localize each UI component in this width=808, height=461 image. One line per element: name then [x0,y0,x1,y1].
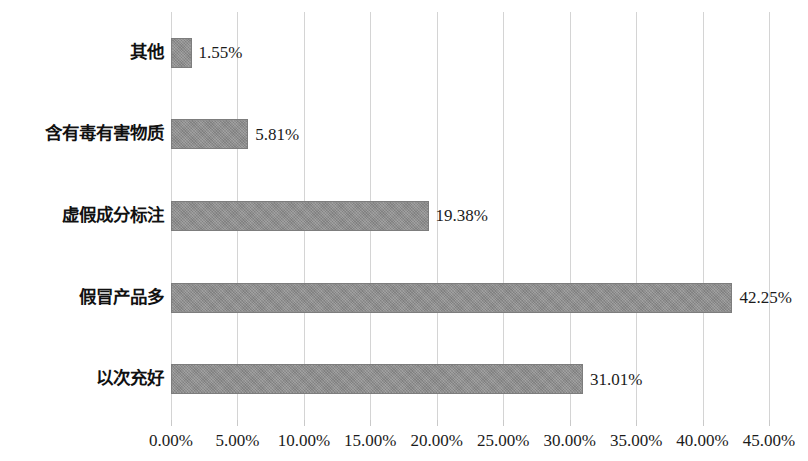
tick-mark [503,420,504,426]
x-tick-label: 40.00% [676,432,728,449]
x-tick-label: 5.00% [215,432,259,449]
category-label: 其他 [6,44,171,62]
bar [171,201,429,231]
bar [171,283,732,313]
tick-mark [703,420,704,426]
tick-mark [769,420,770,426]
bar-value-label: 31.01% [590,371,642,388]
x-tick-label: 45.00% [743,432,795,449]
tick-mark [304,420,305,426]
plot-area: 1.55%5.81%19.38%42.25%31.01% [171,12,769,420]
tick-mark [237,420,238,426]
category-label: 假冒产品多 [6,289,171,307]
bar-value-label: 1.55% [199,44,243,61]
bar-row: 31.01% [171,338,769,420]
tick-mark [437,420,438,426]
bar [171,38,192,68]
x-tick-label: 35.00% [610,432,662,449]
x-tick-label: 30.00% [543,432,595,449]
bar-chart: 其他含有毒有害物质虚假成分标注假冒产品多以次充好 1.55%5.81%19.38… [0,0,808,461]
bar-value-label: 5.81% [255,126,299,143]
gridline-45.00 [769,12,770,420]
x-tick-label: 10.00% [278,432,330,449]
bar [171,119,248,149]
category-label: 以次充好 [6,370,171,388]
x-tick-label: 15.00% [344,432,396,449]
category-label: 含有毒有害物质 [6,125,171,143]
bar-row: 42.25% [171,257,769,339]
tick-mark [370,420,371,426]
tick-mark [636,420,637,426]
bar-value-label: 19.38% [436,207,488,224]
bar [171,364,583,394]
bar-row: 1.55% [171,12,769,94]
bar-row: 19.38% [171,175,769,257]
y-axis-category-labels: 其他含有毒有害物质虚假成分标注假冒产品多以次充好 [0,12,171,420]
x-tick-label: 20.00% [411,432,463,449]
tick-mark [570,420,571,426]
category-label: 虚假成分标注 [6,207,171,225]
x-axis-tick-labels: 0.00%5.00%10.00%15.00%20.00%25.00%30.00%… [171,432,769,458]
tick-mark [171,420,172,426]
x-tick-label: 0.00% [149,432,193,449]
bar-value-label: 42.25% [739,289,791,306]
x-tick-label: 25.00% [477,432,529,449]
bar-row: 5.81% [171,94,769,176]
